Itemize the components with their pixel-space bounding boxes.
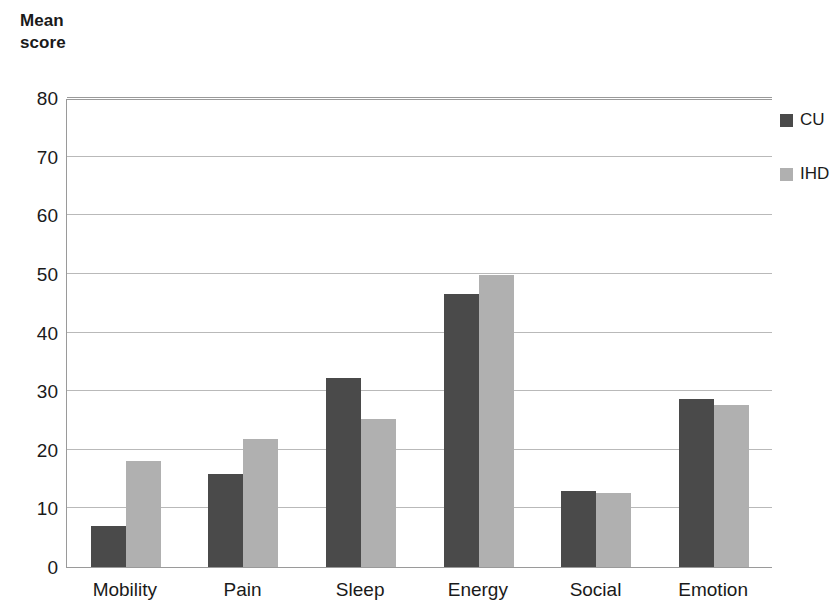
- x-axis: MobilityPainSleepEnergySocialEmotion: [66, 571, 772, 611]
- bar-ihd-mobility[interactable]: [126, 461, 161, 567]
- y-tick-label-70: 70: [37, 147, 58, 169]
- chart-title: Mean score: [20, 10, 66, 55]
- x-tick-label-pain: Pain: [223, 579, 261, 601]
- x-tick-label-emotion: Emotion: [678, 579, 748, 601]
- y-axis: 01020304050607080: [0, 99, 58, 568]
- y-tick-label-30: 30: [37, 381, 58, 403]
- bar-cu-emotion[interactable]: [679, 399, 714, 567]
- y-tick-label-80: 80: [37, 88, 58, 110]
- legend-label-cu: CU: [800, 110, 825, 130]
- bar-group-mobility: [67, 100, 185, 567]
- bar-group-social: [538, 100, 656, 567]
- bar-cu-mobility[interactable]: [91, 526, 126, 567]
- plot-area: [66, 99, 772, 568]
- legend-swatch-ihd-icon: [780, 168, 793, 181]
- y-tick-label-40: 40: [37, 323, 58, 345]
- y-tick-label-50: 50: [37, 264, 58, 286]
- y-tick-label-10: 10: [37, 498, 58, 520]
- x-tick-label-energy: Energy: [448, 579, 508, 601]
- bar-group-sleep: [302, 100, 420, 567]
- legend-swatch-cu-icon: [780, 114, 793, 127]
- x-tick-label-sleep: Sleep: [336, 579, 385, 601]
- y-tick-label-0: 0: [47, 557, 58, 579]
- bar-cu-energy[interactable]: [444, 294, 479, 567]
- x-tick-label-mobility: Mobility: [93, 579, 157, 601]
- bar-group-emotion: [655, 100, 773, 567]
- bar-ihd-emotion[interactable]: [714, 405, 749, 567]
- bar-ihd-pain[interactable]: [243, 439, 278, 567]
- legend-label-ihd: IHD: [800, 164, 829, 184]
- bar-cu-pain[interactable]: [208, 474, 243, 567]
- bar-ihd-energy[interactable]: [479, 275, 514, 567]
- bar-group-energy: [420, 100, 538, 567]
- bar-chart: Mean score 01020304050607080 MobilityPai…: [0, 0, 840, 615]
- x-tick-label-social: Social: [570, 579, 622, 601]
- bar-cu-social[interactable]: [561, 491, 596, 567]
- bar-ihd-social[interactable]: [596, 493, 631, 567]
- y-tick-label-20: 20: [37, 440, 58, 462]
- bar-group-pain: [185, 100, 303, 567]
- gridline-80: [67, 97, 772, 98]
- legend-item-ihd[interactable]: IHD: [780, 164, 840, 184]
- y-tick-label-60: 60: [37, 205, 58, 227]
- bars-layer: [67, 100, 772, 567]
- chart-legend: CUIHD: [780, 110, 840, 218]
- bar-ihd-sleep[interactable]: [361, 419, 396, 567]
- bar-cu-sleep[interactable]: [326, 378, 361, 567]
- legend-item-cu[interactable]: CU: [780, 110, 840, 130]
